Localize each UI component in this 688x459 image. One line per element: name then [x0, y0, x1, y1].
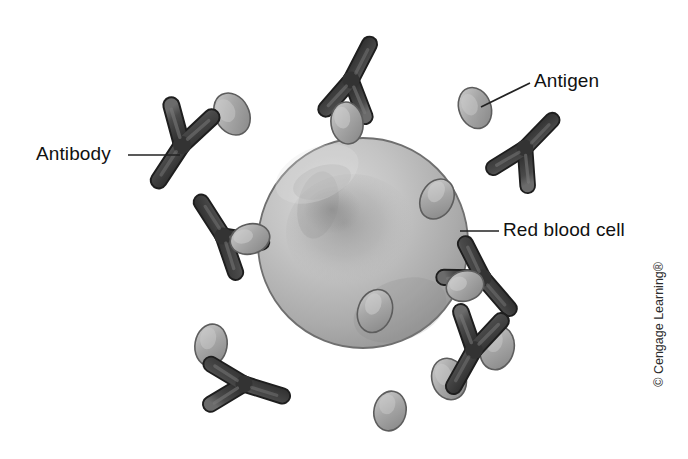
antigen-free-bottom-left — [370, 388, 410, 434]
antibody-bottom-left — [209, 362, 283, 404]
copyright-notice: © Cengage Learning® — [652, 262, 666, 387]
antibody-upper-right — [493, 106, 558, 186]
label-red-blood-cell: Red blood cell — [503, 219, 625, 241]
label-antigen: Antigen — [534, 70, 599, 92]
antibody-labeled-left — [153, 105, 212, 189]
label-antibody: Antibody — [36, 143, 111, 165]
antigen-labeled-upper-right — [453, 83, 497, 133]
leader-antigen — [481, 83, 530, 107]
figure-canvas: Antibody Antigen Red blood cell © Cengag… — [0, 0, 688, 459]
